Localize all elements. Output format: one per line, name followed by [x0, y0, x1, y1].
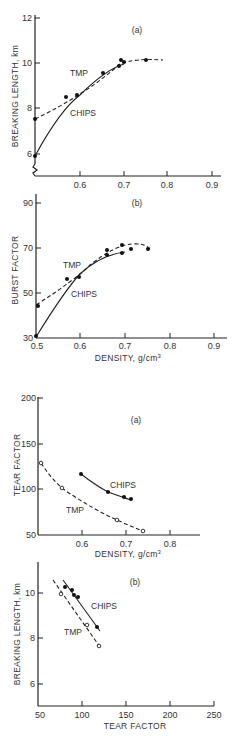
- x-tick-label: 0.6: [74, 180, 87, 190]
- x-tick-label: 0.5: [31, 341, 44, 351]
- chips-label: CHIPS: [110, 480, 136, 490]
- x-tick-label: 200: [162, 710, 177, 720]
- x-tick-label: 100: [74, 710, 89, 720]
- x-tick-label: 50: [35, 710, 45, 720]
- y-tick-label: 6: [27, 149, 32, 159]
- y-tick-label: 100: [21, 484, 36, 494]
- x-tick-label: 0.7: [118, 180, 131, 190]
- y-tick-label: 10: [25, 588, 35, 598]
- y-tick-label: 90: [23, 198, 33, 208]
- x-tick-label: 150: [118, 710, 133, 720]
- x-tick-label: 0.8: [164, 341, 177, 351]
- y-tick-label: 50: [23, 288, 33, 298]
- y-axis-label: BREAKING LENGTH, km: [12, 583, 22, 686]
- y-axis-label: BURST FACTOR: [10, 236, 20, 305]
- x-axis-label: DENSITY, g/cm3: [95, 353, 162, 363]
- chips-label: CHIPS: [70, 108, 96, 118]
- tmp-label: TMP: [70, 68, 88, 78]
- y-tick-label: 12: [22, 13, 32, 23]
- chart-burst-factor-vs-density: 90 70 50 30 0.5 0.6 0.7 0.8 0.9 DENSITY,…: [10, 194, 227, 363]
- chart-tear-factor-vs-density: 200 150 100 50 0.6 0.7 0.8 DENSITY, g/cm…: [12, 393, 200, 559]
- x-tick-label: 0.9: [208, 341, 221, 351]
- panel-label: (a): [131, 415, 142, 425]
- chart-breaking-length-vs-density: 12 10 8 6 0.6 0.7 0.8 0.9 BREAKING LENGT…: [10, 13, 221, 190]
- y-tick-label: 150: [21, 439, 36, 449]
- y-axis-label: TEAR FACTOR: [12, 434, 22, 497]
- tmp-label: TMP: [64, 627, 82, 637]
- chart-breaking-length-vs-tear-factor: 10 8 6 50 100 150 200 250 TEAR FACTOR BR…: [12, 562, 222, 731]
- y-tick-label: 8: [30, 633, 35, 643]
- x-tick-label: 0.7: [120, 539, 133, 549]
- x-axis-label: TEAR FACTOR: [104, 721, 167, 731]
- axis-break: [33, 164, 37, 176]
- panel-label: (a): [132, 25, 143, 35]
- panel-label: (b): [130, 577, 141, 587]
- tmp-curve: [35, 60, 163, 120]
- y-tick-label: 50: [26, 530, 36, 540]
- tmp-label: TMP: [66, 505, 84, 515]
- x-tick-label: 0.6: [74, 341, 87, 351]
- tmp-curve: [41, 463, 143, 531]
- y-axis-label: BREAKING LENGTH, km: [10, 45, 20, 148]
- y-tick-label: 200: [21, 393, 36, 403]
- chips-label: CHIPS: [71, 289, 97, 299]
- tmp-label: TMP: [63, 260, 81, 270]
- x-tick-label: 0.9: [206, 180, 219, 190]
- x-tick-label: 0.8: [161, 180, 174, 190]
- y-tick-label: 70: [23, 243, 33, 253]
- x-axis-label: DENSITY, g/cm3: [95, 549, 162, 559]
- y-tick-label: 10: [22, 58, 32, 68]
- figure: 12 10 8 6 0.6 0.7 0.8 0.9 BREAKING LENGT…: [0, 0, 236, 739]
- x-tick-label: 0.8: [164, 539, 177, 549]
- y-tick-label: 6: [30, 679, 35, 689]
- y-tick-label: 8: [27, 103, 32, 113]
- x-tick-label: 0.7: [119, 341, 132, 351]
- x-tick-label: 0.6: [76, 539, 89, 549]
- chips-label: CHIPS: [91, 601, 117, 611]
- panel-label: (b): [132, 198, 143, 208]
- x-tick-label: 250: [206, 710, 221, 720]
